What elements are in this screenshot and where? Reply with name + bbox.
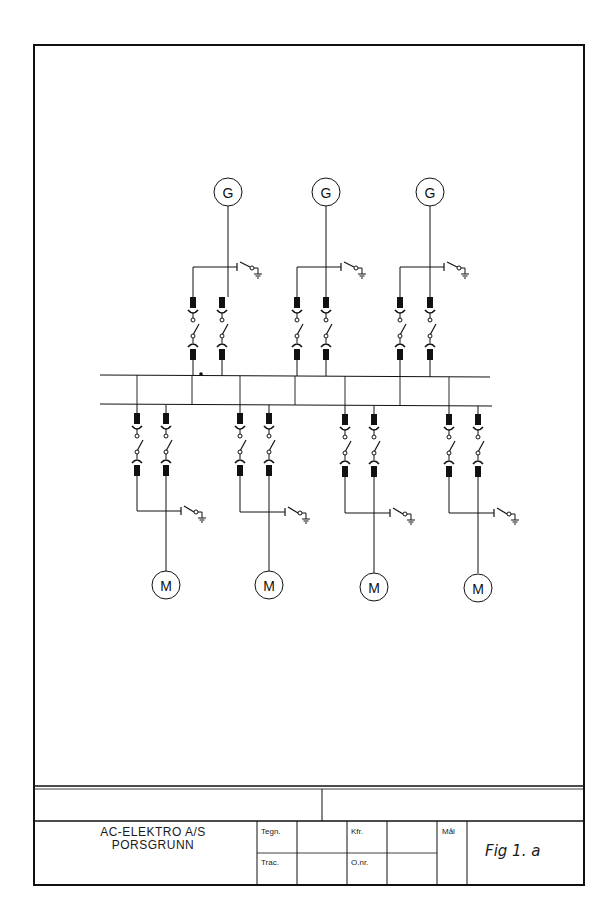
motor-2: M xyxy=(235,405,310,599)
generator-label: G xyxy=(223,185,234,201)
generator-3: G xyxy=(395,178,469,377)
generator-2: G xyxy=(292,178,366,376)
trac-label: Trac. xyxy=(261,858,279,867)
company-city: PORSGRUNN xyxy=(38,839,268,852)
motor-label: M xyxy=(368,580,380,596)
motor-3: M xyxy=(340,406,415,601)
generator-1: G xyxy=(188,178,262,376)
earthing-switch xyxy=(181,506,206,522)
drawing-sheet: G G xyxy=(0,0,611,909)
kfr-label: Kfr. xyxy=(351,827,363,836)
motor-label: M xyxy=(263,578,275,594)
earthing-switch xyxy=(494,508,519,524)
motor-1: M xyxy=(132,405,206,599)
generator-label: G xyxy=(321,185,332,201)
onr-label: O.nr. xyxy=(351,858,368,867)
motor-4: M xyxy=(444,406,519,602)
earthing-switch xyxy=(444,262,469,278)
busbar-lower xyxy=(100,404,492,406)
figure-id: Fig 1. a xyxy=(485,842,540,860)
earthing-switch xyxy=(285,507,310,523)
motor-label: M xyxy=(472,581,484,597)
earthing-switch xyxy=(237,262,262,278)
drawing-border xyxy=(34,45,584,885)
earthing-switch xyxy=(341,262,366,278)
schematic-canvas: G G xyxy=(0,0,611,909)
tegn-label: Tegn. xyxy=(261,827,281,836)
generator-label: G xyxy=(425,185,436,201)
motor-label: M xyxy=(160,578,172,594)
mal-label: Mål xyxy=(442,827,455,836)
earthing-switch xyxy=(390,508,415,524)
